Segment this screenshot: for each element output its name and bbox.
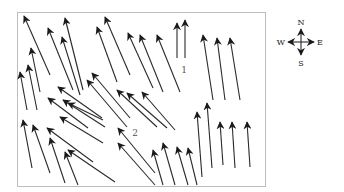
- vector-arrow: [33, 125, 50, 173]
- vector-arrow: [23, 120, 32, 168]
- vector-arrow: [50, 138, 65, 183]
- vector-arrow: [128, 33, 153, 88]
- vector-arrow: [163, 143, 175, 185]
- vector-arrow: [97, 27, 117, 82]
- vector-arrow: [177, 147, 188, 185]
- vector-arrow: [117, 90, 157, 127]
- compass-label-north: N: [298, 18, 305, 27]
- vector-arrow: [207, 103, 212, 168]
- vector-arrow: [65, 152, 78, 185]
- vector-arrow: [58, 87, 102, 118]
- vector-arrow: [220, 122, 223, 165]
- region-labels: 1 2: [132, 65, 187, 138]
- vector-field-diagram: 1 2 N S E W: [0, 0, 344, 192]
- vector-arrow: [230, 38, 240, 100]
- arrows-group: [20, 16, 250, 185]
- vector-arrow: [188, 148, 197, 185]
- vector-arrow: [92, 73, 130, 118]
- compass-label-south: S: [298, 59, 303, 68]
- vector-arrow: [232, 122, 235, 168]
- vector-arrow: [217, 38, 225, 100]
- vector-arrow: [118, 143, 155, 185]
- compass-rose: N S E W: [277, 18, 323, 68]
- compass-label-west: W: [277, 38, 286, 47]
- vector-arrow: [87, 80, 127, 127]
- vector-arrow: [20, 72, 27, 110]
- region-label-1: 1: [181, 65, 187, 75]
- vector-arrow: [203, 35, 213, 100]
- vector-arrow: [197, 112, 202, 177]
- compass-label-east: E: [317, 38, 323, 47]
- vector-arrow: [105, 17, 130, 75]
- vector-arrow: [48, 98, 88, 128]
- vector-arrow: [247, 122, 250, 167]
- vector-arrow: [60, 117, 103, 143]
- vector-arrow: [153, 150, 163, 185]
- region-label-2: 2: [132, 128, 138, 138]
